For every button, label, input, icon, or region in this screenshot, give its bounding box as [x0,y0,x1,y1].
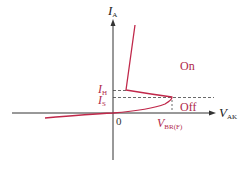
x-axis-label-sub: AK [227,113,237,121]
x-axis-arrow-icon [209,111,216,116]
y-axis-arrow-icon [111,19,116,26]
breakover-voltage-label-sub: BR(F) [164,123,182,131]
y-axis-label-sub: A [112,11,117,19]
switching-current-label: IS [98,94,106,106]
breakover-voltage-label: VBR(F) [157,117,182,129]
off-region-label: Off [180,101,196,113]
switching-current-label-sub: S [102,100,106,108]
x-axis-label: VAK [219,106,237,119]
y-axis-label: IA [108,4,117,17]
origin-label: 0 [116,116,122,127]
characteristic-curve [45,25,172,118]
x-axis-label-main: V [219,105,227,120]
on-region-label: On [180,60,195,72]
scr-characteristic-diagram [0,0,247,170]
